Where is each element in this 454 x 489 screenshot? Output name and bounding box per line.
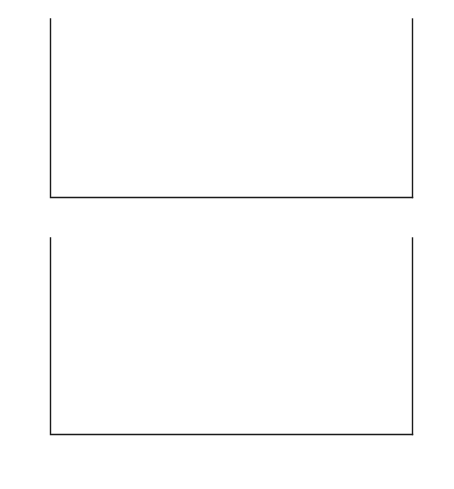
top-panel (51, 19, 413, 198)
bottom-panel-left-bottom-spine (51, 238, 413, 435)
top-panel-left-bottom-spine (51, 19, 413, 198)
figure-container (0, 0, 454, 489)
bottom-panel (51, 238, 413, 435)
two-panel-line-chart (0, 0, 454, 489)
